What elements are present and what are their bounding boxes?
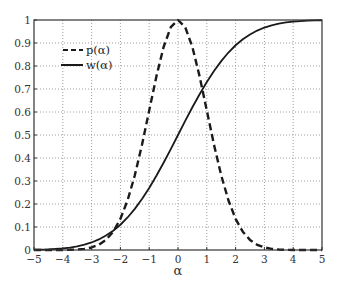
- x-tick-label: 1: [203, 253, 210, 265]
- x-tick-label: −3: [84, 253, 99, 265]
- y-tick-label: 0.9: [14, 37, 31, 49]
- line-chart: −5−4−3−2−1012345 00.10.20.30.40.50.60.70…: [0, 0, 341, 285]
- legend-label-w: w(α): [86, 58, 113, 72]
- y-tick-label: 0.3: [14, 175, 31, 187]
- y-tick-label: 0.7: [14, 83, 31, 95]
- x-axis-label: α: [174, 263, 183, 278]
- x-tick-label: 2: [232, 253, 239, 265]
- y-tick-label: 0: [24, 244, 31, 256]
- y-tick-label: 0.1: [14, 221, 31, 233]
- x-tick-label: 4: [290, 253, 297, 265]
- x-tick-label: −2: [113, 253, 128, 265]
- y-tick-label: 0.8: [14, 60, 31, 72]
- y-tick-label: 0.6: [14, 106, 31, 118]
- y-tick-label: 0.2: [14, 198, 31, 210]
- x-tick-label: 3: [261, 253, 268, 265]
- x-tick-label: −1: [141, 253, 156, 265]
- x-tick-label: −4: [55, 253, 71, 265]
- y-tick-label: 1: [24, 14, 31, 26]
- x-tick-label: 5: [319, 253, 326, 265]
- legend-label-p: p(α): [86, 43, 110, 57]
- y-tick-label: 0.5: [14, 129, 31, 141]
- y-tick-label: 0.4: [14, 152, 31, 164]
- legend: p(α) w(α): [61, 43, 113, 72]
